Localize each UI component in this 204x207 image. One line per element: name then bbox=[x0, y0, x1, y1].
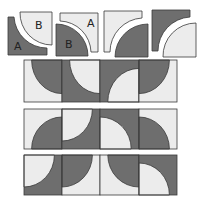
piece-3 bbox=[104, 11, 148, 57]
grid-cell bbox=[139, 109, 177, 149]
grid-cell bbox=[24, 60, 62, 102]
grid-cell bbox=[100, 109, 139, 149]
piece-1-label-a: A bbox=[14, 40, 22, 53]
quilt-grid bbox=[24, 60, 177, 195]
grid-cell bbox=[139, 60, 177, 102]
piece-1: A B bbox=[8, 12, 52, 55]
piece-3-dark-quarter bbox=[115, 24, 148, 57]
grid-cell bbox=[62, 109, 100, 149]
piece-2: A B bbox=[56, 13, 98, 56]
grid-cell bbox=[100, 155, 139, 195]
piece-2-label-b: B bbox=[65, 38, 73, 51]
grid-cell bbox=[24, 155, 62, 195]
grid-cell bbox=[62, 155, 100, 195]
grid-cell bbox=[62, 60, 100, 102]
piece-2-label-a: A bbox=[87, 17, 95, 30]
piece-4 bbox=[152, 10, 196, 57]
piece-4-light-quarter bbox=[163, 23, 196, 57]
quilt-diagram: A B A B bbox=[0, 0, 204, 207]
grid-cell bbox=[100, 60, 139, 102]
grid-cell bbox=[139, 155, 177, 195]
piece-1-label-b: B bbox=[35, 19, 43, 32]
grid-cell bbox=[24, 109, 62, 149]
